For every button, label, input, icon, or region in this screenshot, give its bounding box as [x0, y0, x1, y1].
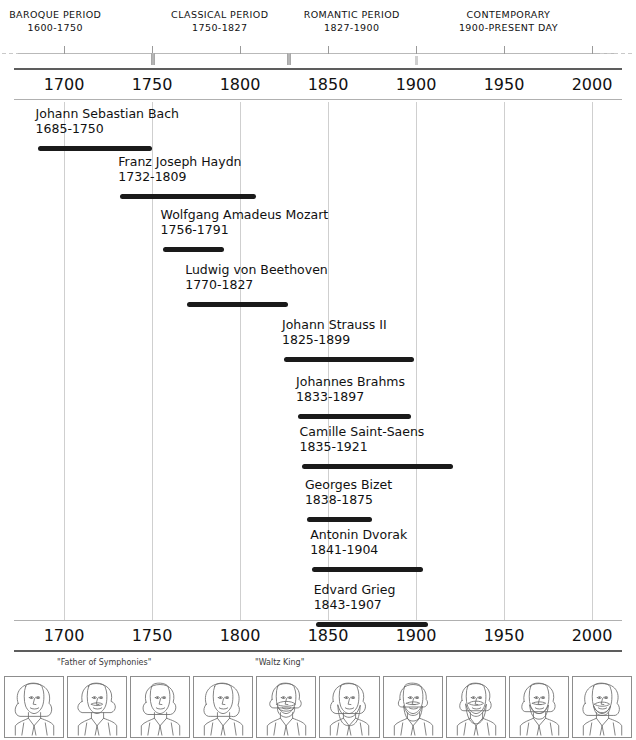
composer-lifespan-bar [298, 414, 411, 419]
bottom-axis-rule-upper [14, 620, 622, 621]
composer-dates: 1825-1899 [282, 332, 387, 347]
portrait-1 [4, 676, 64, 738]
axis-tick-label-1750: 1750 [132, 75, 173, 94]
composer-entry: Camille Saint-Saens1835-1921 [300, 424, 425, 454]
composer-dates: 1841-1904 [310, 542, 407, 557]
period-years: 1900-PRESENT DAY [428, 21, 588, 34]
portrait-3 [130, 676, 190, 738]
composer-entry: Johann Sebastian Bach1685-1750 [36, 106, 179, 136]
band-tick-1850 [328, 46, 329, 54]
band-tick-2000 [592, 46, 593, 54]
composer-lifespan-bar [284, 357, 414, 362]
period-divider-1750 [151, 53, 155, 65]
composer-entry: Antonin Dvorak1841-1904 [310, 527, 407, 557]
band-rule [18, 53, 618, 54]
composer-name: Edvard Grieg [314, 582, 396, 597]
composer-entry: Franz Joseph Haydn1732-1809 [118, 154, 241, 184]
composer-name: Johann Strauss II [282, 317, 387, 332]
period-divider-1900 [415, 56, 418, 65]
axis-tick-label-2000: 2000 [572, 75, 613, 94]
composer-entry: Edvard Grieg1843-1907 [314, 582, 396, 612]
composer-entry: Ludwig von Beethoven1770-1827 [185, 262, 328, 292]
axis-tick-label-1900: 1900 [396, 75, 437, 94]
axis-tick-label-1900: 1900 [396, 626, 437, 645]
axis-tick-label-1800: 1800 [220, 626, 261, 645]
band-tick-1900 [416, 46, 417, 54]
composer-lifespan-bar [302, 464, 453, 469]
composer-dates: 1838-1875 [305, 492, 392, 507]
composer-dates: 1685-1750 [36, 121, 179, 136]
composer-dates: 1732-1809 [118, 169, 241, 184]
bottom-axis-rule-lower [14, 650, 622, 652]
portrait-7 [383, 676, 443, 738]
composer-entry: Wolfgang Amadeus Mozart1756-1791 [161, 207, 329, 237]
composer-dates: 1843-1907 [314, 597, 396, 612]
axis-tick-label-1750: 1750 [132, 626, 173, 645]
band-dash-right [600, 53, 634, 54]
portrait-6 [319, 676, 379, 738]
portrait-8 [446, 676, 506, 738]
axis-tick-label-2000: 2000 [572, 626, 613, 645]
nickname-label: "Waltz King" [255, 658, 304, 667]
composer-lifespan-bar [120, 194, 256, 199]
plot-area: Johann Sebastian Bach1685-1750Franz Jose… [0, 102, 636, 620]
period-label-2: ROMANTIC PERIOD1827-1900 [272, 8, 432, 34]
composer-entry: Johannes Brahms1833-1897 [296, 374, 405, 404]
axis-labels-top: 1700175018001850190019502000 [0, 75, 636, 97]
period-years: 1600-1750 [0, 21, 135, 34]
top-axis-rule-upper [14, 68, 622, 70]
axis-labels-bottom: 1700175018001850190019502000 [0, 626, 636, 648]
composer-name: Antonin Dvorak [310, 527, 407, 542]
portrait-strip [4, 676, 632, 736]
period-years: 1827-1900 [272, 21, 432, 34]
band-tick-1700 [64, 46, 65, 54]
portrait-10 [572, 676, 632, 738]
portrait-4 [193, 676, 253, 738]
nickname-label: "Father of Symphonies" [57, 658, 151, 667]
composer-name: Wolfgang Amadeus Mozart [161, 207, 329, 222]
portrait-9 [509, 676, 569, 738]
composer-dates: 1833-1897 [296, 389, 405, 404]
axis-tick-label-1800: 1800 [220, 75, 261, 94]
top-axis-rule-lower [14, 99, 622, 100]
composer-dates: 1835-1921 [300, 439, 425, 454]
band-tick-1800 [240, 46, 241, 54]
portrait-2 [67, 676, 127, 738]
period-label-0: BAROQUE PERIOD1600-1750 [0, 8, 135, 34]
composer-entry: Georges Bizet1838-1875 [305, 477, 392, 507]
composer-lifespan-bar [312, 567, 423, 572]
timeline-chart: BAROQUE PERIOD1600-1750CLASSICAL PERIOD1… [0, 0, 636, 740]
axis-tick-label-1700: 1700 [44, 626, 85, 645]
axis-tick-label-1850: 1850 [308, 626, 349, 645]
axis-tick-label-1950: 1950 [484, 626, 525, 645]
composer-dates: 1756-1791 [161, 222, 329, 237]
composer-name: Camille Saint-Saens [300, 424, 425, 439]
axis-tick-label-1700: 1700 [44, 75, 85, 94]
gridline-1700 [64, 102, 65, 620]
axis-tick-label-1850: 1850 [308, 75, 349, 94]
band-tick-1950 [504, 46, 505, 54]
period-label-3: CONTEMPORARY1900-PRESENT DAY [428, 8, 588, 34]
period-divider-1827 [287, 53, 291, 65]
composer-name: Johannes Brahms [296, 374, 405, 389]
gridline-2000 [592, 102, 593, 620]
composer-name: Franz Joseph Haydn [118, 154, 241, 169]
composer-lifespan-bar [38, 146, 152, 151]
gridline-1950 [504, 102, 505, 620]
gridline-1900 [416, 102, 417, 620]
composer-entry: Johann Strauss II1825-1899 [282, 317, 387, 347]
composer-dates: 1770-1827 [185, 277, 328, 292]
composer-name: Johann Sebastian Bach [36, 106, 179, 121]
portrait-5 [256, 676, 316, 738]
band-dash-left [2, 53, 18, 54]
composer-lifespan-bar [187, 302, 287, 307]
composer-lifespan-bar [163, 247, 225, 252]
period-name: CONTEMPORARY [428, 8, 588, 21]
axis-tick-label-1950: 1950 [484, 75, 525, 94]
period-name: ROMANTIC PERIOD [272, 8, 432, 21]
composer-name: Ludwig von Beethoven [185, 262, 328, 277]
period-name: BAROQUE PERIOD [0, 8, 135, 21]
composer-name: Georges Bizet [305, 477, 392, 492]
period-band: BAROQUE PERIOD1600-1750CLASSICAL PERIOD1… [0, 8, 636, 56]
composer-lifespan-bar [307, 517, 372, 522]
